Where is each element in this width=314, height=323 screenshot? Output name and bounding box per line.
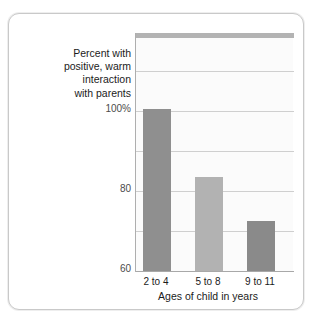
- x-axis-title: Ages of child in years: [119, 290, 297, 302]
- plot-header-band: [136, 33, 294, 38]
- y-axis-caption-line: Percent with: [19, 47, 131, 60]
- x-axis-tick-label: 9 to 11: [231, 276, 289, 287]
- y-axis-caption-line: positive, warm: [19, 60, 131, 73]
- bar-2-to-4: [143, 109, 171, 271]
- y-axis-tick-label: 100%: [105, 104, 131, 114]
- y-axis-caption: Percent with positive, warm interaction …: [19, 47, 131, 100]
- plot-area: 020406080100%: [135, 33, 293, 272]
- y-axis-tick-label: 80: [120, 184, 131, 194]
- figure-card: Percent with positive, warm interaction …: [8, 13, 304, 310]
- bar-5-to-8: [195, 177, 223, 271]
- y-axis-caption-line: with parents: [19, 87, 131, 100]
- x-axis-tick-label: 5 to 8: [179, 276, 237, 287]
- gridline: 0: [136, 271, 294, 272]
- bar-9-to-11: [247, 221, 275, 271]
- gridline: 100%: [136, 71, 294, 72]
- x-axis-tick-label: 2 to 4: [127, 276, 185, 287]
- y-axis-tick-label: 60: [120, 264, 131, 274]
- y-axis-caption-line: interaction: [19, 73, 131, 86]
